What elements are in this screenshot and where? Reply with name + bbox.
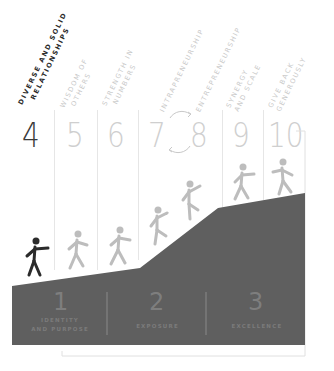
walking-person-icon (27, 238, 48, 276)
stage-label-line: AND PURPOSE (15, 325, 105, 334)
stage-label-3: EXCELLENCE (212, 322, 302, 331)
climbing-person-icon (151, 207, 167, 245)
climbing-person-icon (183, 181, 200, 220)
stage-label-line: EXCELLENCE (212, 322, 302, 331)
circular-arrows-icon (169, 111, 191, 152)
walking-person-icon (69, 231, 87, 269)
stage-label-line: EXPOSURE (115, 322, 200, 331)
stage-number-2: 2 (149, 290, 164, 314)
stage-label-line: IDENTITY (15, 316, 105, 325)
stage-number-3: 3 (248, 290, 263, 314)
stage-label-1: IDENTITY AND PURPOSE (15, 316, 105, 334)
growth-path-diagram: DIVERSE AND SOLID RELATIONSHIPS WISDOM O… (0, 0, 334, 371)
walking-person-icon (111, 227, 130, 265)
stage-number-1: 1 (53, 290, 68, 314)
walking-person-icon (235, 164, 254, 200)
stage-label-2: EXPOSURE (115, 322, 200, 331)
walking-person-icon (273, 159, 292, 195)
